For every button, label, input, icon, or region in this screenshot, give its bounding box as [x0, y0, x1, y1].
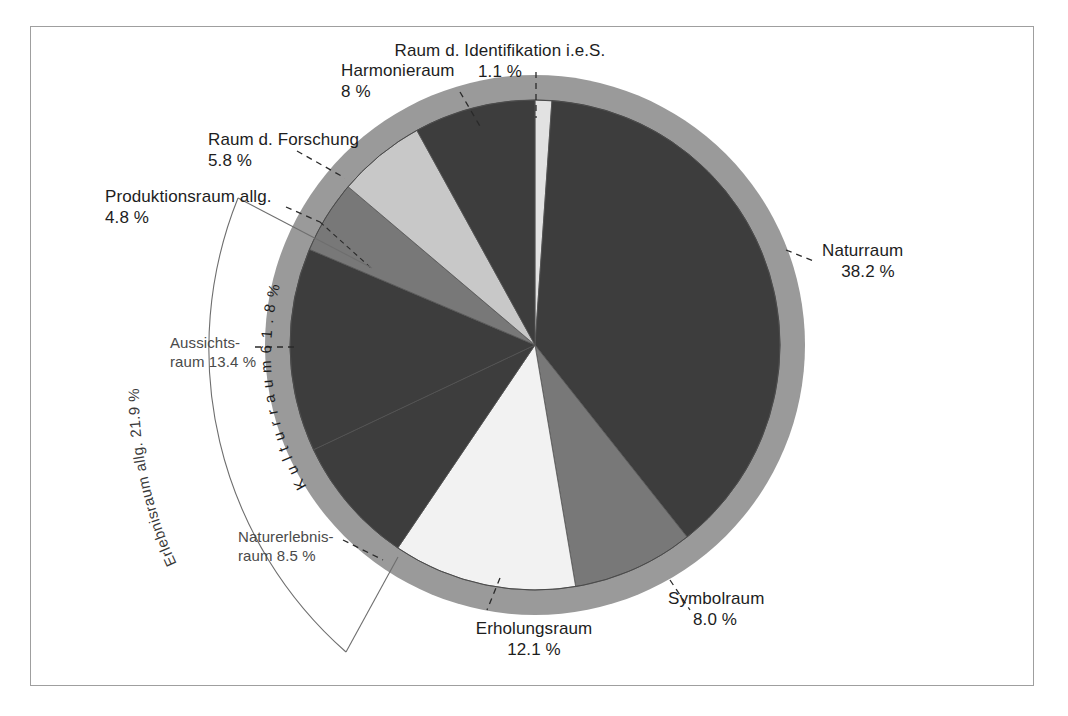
label-naturraum-name: Naturraum [822, 241, 903, 260]
label-harmonieraum-value: 8 % [341, 81, 455, 102]
label-harmonieraum-name: Harmonieraum [341, 61, 455, 80]
pie-chart-svg: K u l t u r r a u m 6 1 . 8 % Erlebnisra… [0, 0, 1068, 716]
label-erholungsraum: Erholungsraum 12.1 % [424, 618, 644, 661]
label-naturerlebnisraum: Naturerlebnis- raum 8.5 % [238, 528, 334, 566]
label-erholungsraum-value: 12.1 % [424, 639, 644, 660]
label-naturerlebnisraum-name: Naturerlebnis- [238, 528, 334, 545]
label-aussichtsraum-name: Aussichts- [170, 334, 240, 351]
label-symbolraum-value: 8.0 % [668, 609, 762, 630]
label-naturerlebnisraum-value: raum 8.5 % [238, 547, 334, 566]
label-erholungsraum-name: Erholungsraum [476, 619, 593, 638]
pie-slices [290, 100, 780, 590]
label-harmonieraum: Harmonieraum 8 % [341, 60, 455, 103]
pie-chart-figure: K u l t u r r a u m 6 1 . 8 % Erlebnisra… [0, 0, 1068, 716]
label-produktionsraum-value: 4.8 % [105, 207, 272, 228]
label-symbolraum-name: Symbolraum [668, 589, 764, 608]
label-produktionsraum: Produktionsraum allg. 4.8 % [105, 186, 272, 229]
label-forschung-value: 5.8 % [208, 150, 359, 171]
label-identifikation-name: Raum d. Identifikation i.e.S. [395, 41, 606, 60]
label-symbolraum: Symbolraum 8.0 % [668, 588, 764, 631]
label-produktionsraum-name: Produktionsraum allg. [105, 187, 272, 206]
arc-label-erlebnisraum: Erlebnisraum allg. 21.9 % [125, 388, 179, 569]
label-forschung: Raum d. Forschung 5.8 % [208, 129, 359, 172]
label-aussichtsraum: Aussichts- raum 13.4 % [170, 334, 256, 372]
label-forschung-name: Raum d. Forschung [208, 130, 359, 149]
label-aussichtsraum-value: raum 13.4 % [170, 353, 256, 372]
label-naturraum-value: 38.2 % [822, 261, 914, 282]
label-naturraum: Naturraum 38.2 % [822, 240, 914, 283]
